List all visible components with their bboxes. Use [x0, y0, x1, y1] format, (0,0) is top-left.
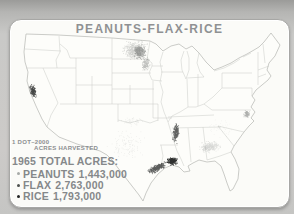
crop-acres: 1,793,000 — [53, 190, 102, 202]
map-legend: 1 DOT–2000 ACRES HARVESTED 1965 TOTAL AC… — [12, 139, 127, 202]
crop-name: RICE — [23, 190, 49, 202]
crop-acres: 2,763,000 — [55, 179, 104, 191]
legend-item-peanuts: PEANUTS 1,443,000 — [12, 168, 127, 179]
rice-dot-icon — [17, 195, 20, 198]
crop-acres: 1,443,000 — [79, 168, 128, 180]
crop-name: FLAX — [23, 179, 51, 191]
crop-totals-list: PEANUTS 1,443,000 FLAX 2,763,000 RICE 1,… — [12, 168, 127, 202]
dot-scale-unit-label: ACRES HARVESTED — [12, 145, 127, 151]
totals-heading: 1965 TOTAL ACRES: — [12, 155, 127, 167]
map-title: PEANUTS-FLAX-RICE — [9, 22, 290, 36]
peanuts-dot-icon — [17, 172, 20, 175]
photo-background: PEANUTS-FLAX-RICE 1 DOT–2000 ACRES HARVE… — [0, 0, 294, 214]
legend-item-rice: RICE 1,793,000 — [12, 191, 127, 202]
crop-name: PEANUTS — [23, 168, 75, 180]
legend-item-flax: FLAX 2,763,000 — [12, 179, 127, 190]
flax-dot-icon — [17, 184, 20, 187]
